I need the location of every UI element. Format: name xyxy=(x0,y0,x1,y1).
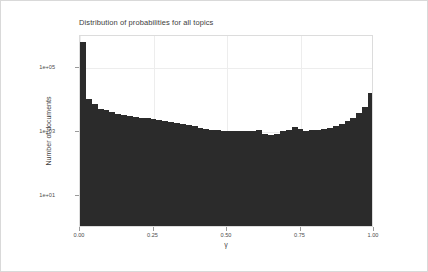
x-tick-mark xyxy=(373,227,374,231)
x-tick-mark xyxy=(300,227,301,231)
x-tick-mark xyxy=(79,227,80,231)
x-tick-label: 0.00 xyxy=(74,232,85,238)
x-tick-mark xyxy=(226,227,227,231)
x-tick-label: 1.00 xyxy=(368,232,379,238)
histogram-bar xyxy=(368,93,373,226)
y-tick-mark xyxy=(75,131,79,132)
page-title: Distribution of probabilities for all to… xyxy=(79,18,213,27)
y-axis-label: Number of documents xyxy=(45,71,52,191)
x-axis-label: γ xyxy=(79,241,373,248)
y-tick-mark xyxy=(75,195,79,196)
x-tick-label: 0.75 xyxy=(294,232,305,238)
histogram-bars xyxy=(80,36,372,226)
x-tick-mark xyxy=(153,227,154,231)
x-tick-label: 0.50 xyxy=(221,232,232,238)
figure-canvas: Distribution of probabilities for all to… xyxy=(0,0,428,272)
plot-panel xyxy=(79,35,373,227)
x-tick-label: 0.25 xyxy=(147,232,158,238)
y-tick-mark xyxy=(75,67,79,68)
y-axis-title-wrap: Number of documents xyxy=(23,35,43,227)
